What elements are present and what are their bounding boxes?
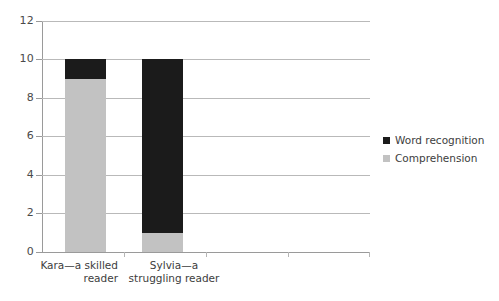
bar-segment-word-recognition[interactable] <box>142 59 183 233</box>
legend-item-comprehension[interactable]: Comprehension <box>383 149 484 167</box>
y-axis-tick-group: 4 <box>0 169 34 180</box>
chart-legend: Word recognition Comprehension <box>383 131 484 167</box>
y-axis-tick-group: 0 <box>0 246 34 257</box>
x-axis-tick-mark <box>124 252 125 257</box>
x-axis-tick-mark <box>206 252 207 257</box>
y-axis-tick-group: 8 <box>0 92 34 103</box>
y-axis-label-8: 8 <box>4 92 34 103</box>
bar-segment-comprehension[interactable] <box>142 233 183 252</box>
y-axis-label-10: 10 <box>4 53 34 64</box>
y-axis-tick-group: 12 <box>0 15 34 26</box>
y-axis-label-0: 0 <box>4 246 34 257</box>
y-axis-label-6: 6 <box>4 130 34 141</box>
y-axis-tick-group: 6 <box>0 130 34 141</box>
y-axis-label-12: 12 <box>4 15 34 26</box>
x-axis-tick-mark <box>369 252 370 257</box>
legend-swatch-icon <box>383 137 390 144</box>
x-axis-tick-mark <box>288 252 289 257</box>
legend-swatch-icon <box>383 155 390 162</box>
legend-label: Word recognition <box>395 135 484 146</box>
legend-item-word-recognition[interactable]: Word recognition <box>383 131 484 149</box>
x-axis-label-kara: Kara—a skilled reader <box>22 259 118 285</box>
x-axis-label-sylvia: Sylvia—a struggling reader <box>122 259 226 285</box>
bar-segment-comprehension[interactable] <box>65 79 106 252</box>
bar-segment-word-recognition[interactable] <box>65 59 106 79</box>
legend-label: Comprehension <box>395 153 477 164</box>
y-axis-label-4: 4 <box>4 169 34 180</box>
stacked-bar-chart: 12 10 8 6 4 2 0 <box>0 0 499 301</box>
y-axis-tick-group: 2 <box>0 207 34 218</box>
y-axis-label-2: 2 <box>4 207 34 218</box>
plot-area <box>42 21 370 252</box>
y-axis-tick-group: 10 <box>0 53 34 64</box>
gridline-12 <box>42 21 370 22</box>
